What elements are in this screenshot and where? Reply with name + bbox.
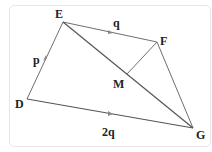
point-label-f: F — [160, 34, 167, 48]
segment-fm — [127, 42, 157, 74]
segment-eg — [63, 22, 193, 128]
segment-fg — [157, 42, 193, 128]
point-label-d: D — [15, 97, 24, 111]
vector-label-2q: 2q — [102, 125, 115, 139]
vector-label-q: q — [113, 16, 120, 30]
point-label-m: M — [113, 77, 124, 91]
vector-label-p: p — [33, 53, 40, 67]
vector-diagram: E F M D G p q 2q — [0, 0, 212, 152]
point-label-g: G — [196, 128, 205, 142]
point-label-e: E — [55, 7, 63, 21]
